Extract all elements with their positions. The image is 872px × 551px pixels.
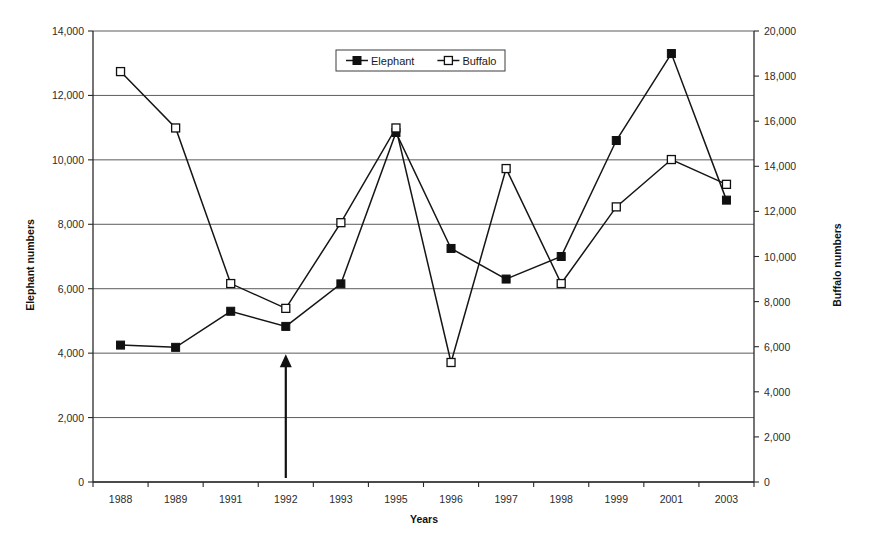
data-point-marker — [502, 165, 510, 173]
data-point-marker — [447, 244, 455, 252]
right-axis-tick-label: 20,000 — [764, 25, 796, 37]
left-axis-tick-label: 0 — [78, 476, 84, 488]
data-point-marker — [667, 50, 675, 58]
data-point-marker — [722, 196, 730, 204]
right-axis-tick-label: 14,000 — [764, 160, 796, 172]
x-axis-tick-label: 1997 — [494, 493, 518, 505]
chart-figure: 02,0004,0006,0008,00010,00012,00014,000 … — [0, 0, 872, 551]
data-point-marker — [667, 156, 675, 164]
legend-marker-icon — [444, 57, 452, 65]
x-axis-title: Years — [410, 513, 438, 525]
x-axis-tick-label: 1998 — [550, 493, 574, 505]
right-axis-tick-label: 16,000 — [764, 115, 796, 127]
data-point-marker — [282, 322, 290, 330]
x-axis-tick-label: 1999 — [605, 493, 629, 505]
data-point-marker — [392, 124, 400, 132]
left-axis-tick-label: 14,000 — [52, 25, 84, 37]
data-point-marker — [117, 341, 125, 349]
data-point-marker — [282, 304, 290, 312]
right-axis-tick-label: 0 — [764, 476, 770, 488]
line-chart-canvas: 02,0004,0006,0008,00010,00012,00014,000 … — [0, 0, 872, 551]
right-axis-title: Buffalo numbers — [831, 223, 843, 307]
data-point-marker — [502, 275, 510, 283]
data-point-marker — [557, 280, 565, 288]
left-axis-tick-label: 10,000 — [52, 154, 84, 166]
data-point-marker — [612, 203, 620, 211]
x-axis-tick-label: 2001 — [660, 493, 684, 505]
x-axis-tick-label: 1989 — [164, 493, 188, 505]
x-axis-tick-label: 1988 — [109, 493, 133, 505]
data-point-marker — [612, 137, 620, 145]
x-axis-tick-label: 1996 — [439, 493, 463, 505]
data-point-marker — [337, 219, 345, 227]
left-axis-tick-label: 8,000 — [58, 218, 84, 230]
data-point-marker — [557, 253, 565, 261]
left-axis-tick-label: 12,000 — [52, 89, 84, 101]
right-axis-tick-label: 4,000 — [764, 386, 790, 398]
data-point-marker — [722, 180, 730, 188]
right-axis-tick-label: 8,000 — [764, 296, 790, 308]
x-axis-tick-label: 1993 — [329, 493, 353, 505]
x-axis-tick-label: 2003 — [715, 493, 739, 505]
legend-marker-icon — [353, 57, 361, 65]
right-axis-tick-label: 2,000 — [764, 431, 790, 443]
data-point-marker — [227, 280, 235, 288]
data-point-marker — [227, 307, 235, 315]
legend-item-elephant[interactable]: Elephant — [346, 55, 414, 67]
data-point-marker — [447, 358, 455, 366]
data-point-marker — [172, 124, 180, 132]
right-axis-tick-label: 6,000 — [764, 341, 790, 353]
left-axis-tick-label: 4,000 — [58, 347, 84, 359]
left-axis-tick-label: 2,000 — [58, 412, 84, 424]
left-axis-title: Elephant numbers — [24, 219, 36, 311]
x-axis-tick-label: 1992 — [274, 493, 298, 505]
legend-label: Elephant — [371, 55, 414, 67]
right-axis-tick-label: 18,000 — [764, 70, 796, 82]
data-point-marker — [172, 343, 180, 351]
legend-item-buffalo[interactable]: Buffalo — [437, 55, 496, 67]
right-axis-tick-label: 12,000 — [764, 205, 796, 217]
x-axis-tick-label: 1991 — [219, 493, 243, 505]
right-axis-tick-label: 10,000 — [764, 251, 796, 263]
x-axis-tick-label: 1995 — [384, 493, 408, 505]
left-axis-tick-label: 6,000 — [58, 283, 84, 295]
legend-group: ElephantBuffalo — [336, 50, 505, 71]
legend-label: Buffalo — [462, 55, 496, 67]
data-point-marker — [117, 68, 125, 76]
data-point-marker — [337, 280, 345, 288]
